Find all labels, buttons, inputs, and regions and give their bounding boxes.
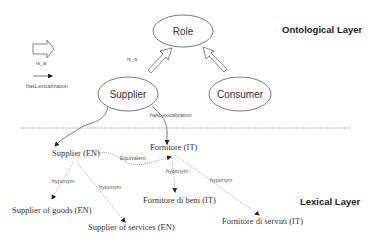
node-supplier-label: Supplier xyxy=(110,89,147,100)
lex-node-supplier-services-en[interactable]: Supplier of services (EN) xyxy=(88,222,175,232)
lex-node-supplier-goods-en[interactable]: Supplier of goods (EN) xyxy=(12,205,92,215)
edge-has-lexicalization-label: hasLexicalization xyxy=(150,112,192,118)
lex-node-fornitore-servizi-it[interactable]: Fornitore di servizi (IT) xyxy=(222,216,303,226)
node-consumer-label: Consumer xyxy=(217,89,264,100)
lex-node-fornitore-beni-it[interactable]: Fornitore di beni (IT) xyxy=(143,195,216,205)
legend-is-a-label: is_a xyxy=(36,60,47,66)
edge-has-lexicalization: hasLexicalization xyxy=(55,106,192,146)
is-a-arrow-icon xyxy=(203,47,227,72)
legend-has-lexicalization-label: hasLexicalization xyxy=(26,83,68,89)
is-a-legend-arrow-icon xyxy=(33,40,54,58)
node-role-label: Role xyxy=(173,26,194,37)
legend: is_a hasLexicalization xyxy=(26,40,68,89)
is-a-arrow-icon xyxy=(148,48,172,73)
edge-hyponym-goods: hyponym xyxy=(52,161,75,199)
diagram-canvas: Ontological Layer Lexical Layer is_a has… xyxy=(0,0,371,246)
node-supplier[interactable]: Supplier xyxy=(98,77,158,111)
lex-node-supplier-en[interactable]: Supplier (EN) xyxy=(52,148,100,158)
edge-hyponym-beni-label: hyponym xyxy=(166,168,189,174)
edge-hyponym-beni: hyponym xyxy=(166,156,189,192)
lexical-layer-label: Lexical Layer xyxy=(300,196,361,207)
edge-supplier-is-a-role: is_a xyxy=(127,48,172,73)
lex-node-fornitore-it[interactable]: Fornitore (IT) xyxy=(150,142,198,152)
edge-hyponym-goods-label: hyponym xyxy=(52,178,75,184)
edge-equivalent: Equivalent xyxy=(98,152,171,164)
edge-hyponym-servizi-label: hyponym xyxy=(210,177,233,183)
ontological-layer-label: Ontological Layer xyxy=(282,24,363,35)
node-role[interactable]: Role xyxy=(153,15,213,47)
node-consumer[interactable]: Consumer xyxy=(209,77,271,111)
edge-is-a-label: is_a xyxy=(127,56,138,62)
edge-consumer-is-a-role xyxy=(203,47,227,72)
edge-equivalent-label: Equivalent xyxy=(120,155,146,161)
edge-hyponym-services-label: hyponym xyxy=(99,184,122,190)
edge-hyponym-servizi: hyponym xyxy=(175,155,259,215)
